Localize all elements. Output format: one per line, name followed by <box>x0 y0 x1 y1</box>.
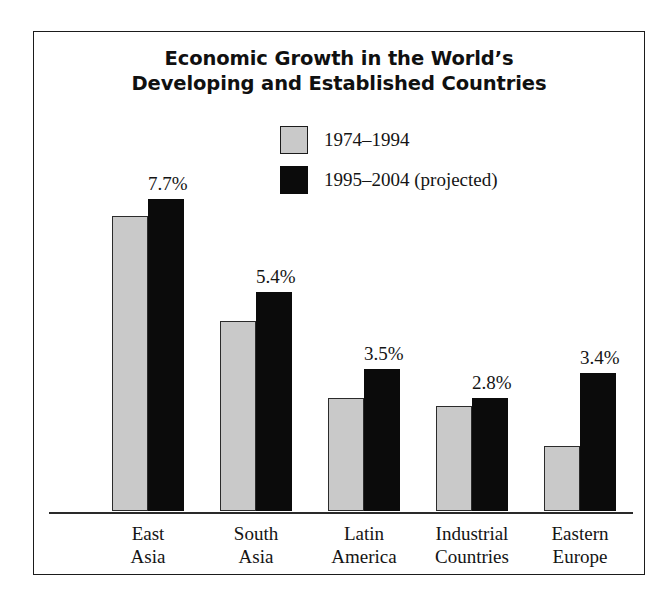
bar-south-asia-1974-1994 <box>220 321 256 511</box>
bars-industrial-countries <box>436 171 508 511</box>
bar-south-asia-1995-2004 <box>256 292 292 511</box>
category-label-industrial-countries: Industrial Countries <box>410 522 534 568</box>
plot-area: 7.7% East Asia 5.4% South Asia 3.5% <box>34 32 644 574</box>
category-label-eastern-europe-line-1: Eastern <box>518 522 642 545</box>
category-label-latin-america-line-1: Latin <box>302 522 426 545</box>
bar-east-asia-1974-1994 <box>112 216 148 511</box>
bars-eastern-europe <box>544 171 616 511</box>
chart-frame: Economic Growth in the World’s Developin… <box>33 31 645 575</box>
bars-south-asia <box>220 171 292 511</box>
bar-industrial-countries-1995-2004 <box>472 398 508 511</box>
category-label-south-asia-line-1: South <box>194 522 318 545</box>
bar-latin-america-1974-1994 <box>328 398 364 511</box>
category-label-south-asia-line-2: Asia <box>194 545 318 568</box>
bar-industrial-countries-1974-1994 <box>436 406 472 511</box>
bar-eastern-europe-1974-1994 <box>544 446 580 511</box>
x-axis-line <box>49 512 633 514</box>
category-label-industrial-countries-line-2: Countries <box>410 545 534 568</box>
category-label-east-asia-line-2: Asia <box>86 545 210 568</box>
bar-east-asia-1995-2004 <box>148 199 184 511</box>
bar-latin-america-1995-2004 <box>364 369 400 511</box>
bar-eastern-europe-1995-2004 <box>580 373 616 511</box>
category-label-eastern-europe-line-2: Europe <box>518 545 642 568</box>
category-label-latin-america-line-2: America <box>302 545 426 568</box>
bars-latin-america <box>328 171 400 511</box>
category-label-eastern-europe: Eastern Europe <box>518 522 642 568</box>
category-label-east-asia-line-1: East <box>86 522 210 545</box>
category-label-south-asia: South Asia <box>194 522 318 568</box>
bars-east-asia <box>112 171 184 511</box>
category-label-latin-america: Latin America <box>302 522 426 568</box>
category-label-industrial-countries-line-1: Industrial <box>410 522 534 545</box>
category-label-east-asia: East Asia <box>86 522 210 568</box>
